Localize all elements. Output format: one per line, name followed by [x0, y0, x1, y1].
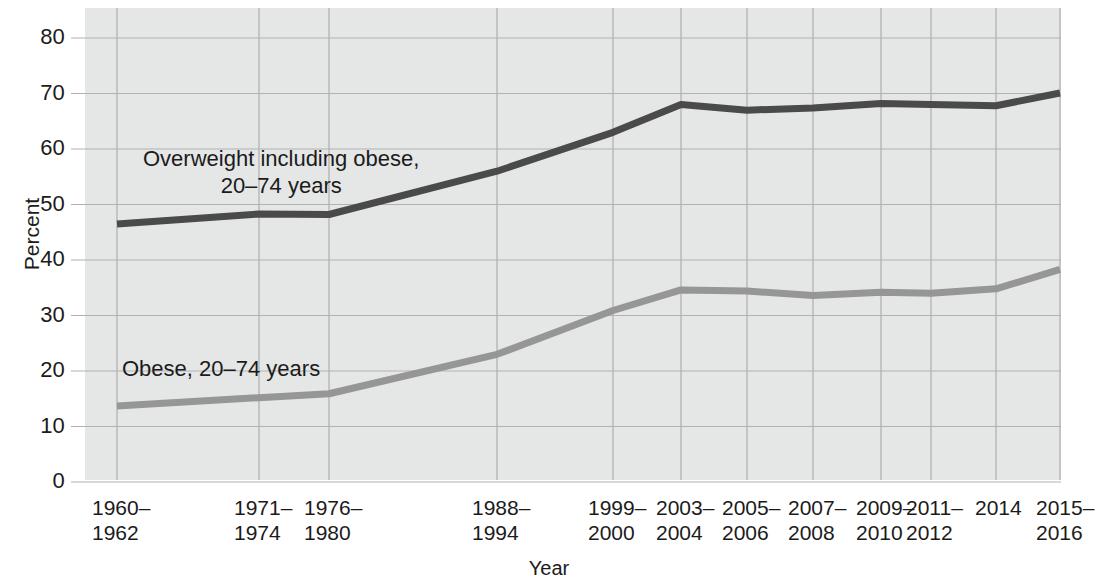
- obesity-trend-chart: 01020304050607080 Percent Overweight inc…: [0, 0, 1098, 582]
- series-line-obese: [117, 269, 1060, 406]
- x-axis-tick-label: 2007– 2008: [788, 495, 846, 545]
- x-axis-title: Year: [0, 557, 1098, 580]
- series-label-obese: Obese, 20–74 years: [122, 355, 320, 382]
- series-label-overweight-including-obese: Overweight including obese, 20–74 years: [143, 145, 419, 199]
- x-axis-tick-label: 1960– 1962: [92, 495, 150, 545]
- x-axis-tick-label: 2005– 2006: [722, 495, 780, 545]
- x-axis-tick-label: 2011– 2012: [906, 495, 963, 545]
- x-axis-tick-label: 2014: [975, 495, 1022, 520]
- x-axis-tick-label: 1999– 2000: [588, 495, 646, 545]
- x-axis-tick-label: 2015– 2016: [1036, 495, 1094, 545]
- x-axis-tick-label: 1971– 1974: [234, 495, 292, 545]
- x-axis-tick-label: 1988– 1994: [472, 495, 530, 545]
- x-axis-tick-label: 2003– 2004: [656, 495, 714, 545]
- x-axis-tick-label: 1976– 1980: [304, 495, 362, 545]
